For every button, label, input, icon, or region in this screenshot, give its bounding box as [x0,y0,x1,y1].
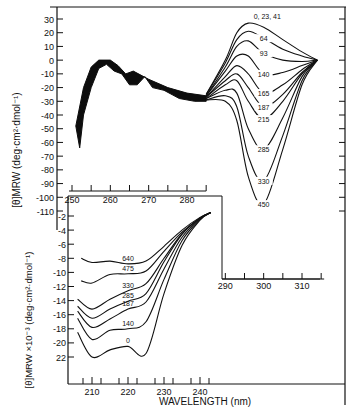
series-label: 0, 23, 41 [254,13,281,20]
y-tick-label: -100 [36,193,54,203]
inset-curve-labels: 6404753302851871400 [122,255,134,344]
x-tick-label: 310 [294,281,309,291]
main-curve-labels: 0, 23, 416493140165187215285330450 [254,12,281,208]
inset-series-label: 330 [122,282,134,289]
inset-y-tick-label: -20 [53,338,66,348]
inset-y-axis: -2-4-6-8-10-12-14-16-18-2022 [53,212,74,363]
x-tick-label: 300 [256,281,271,291]
inset-y-tick-label: -6 [58,240,66,250]
series-label: 64 [260,35,268,42]
inset-curves [78,213,211,358]
y-tick-label: -20 [41,83,54,93]
y-tick-label: 10 [44,42,54,52]
inset-series-label: 0 [126,337,130,344]
y-tick-label: -110 [37,207,54,217]
y-tick-label: -90 [41,179,54,189]
series-label: 165 [258,90,270,97]
inset-y-tick-label: -2 [58,212,66,222]
x-tick-label: 290 [218,281,233,291]
y-tick-label: 30 [44,15,54,25]
main-y-axis-label: [θ]MRW (deg·cm²·dmol⁻¹) [11,92,22,207]
inset-curve [81,213,211,264]
series-label: 285 [258,146,270,153]
inset-series-label: 140 [122,320,134,327]
inset-y-tick-label: 22 [56,353,66,363]
y-tick-label: -70 [41,152,54,162]
y-tick-label: -40 [41,111,54,121]
series-label: 450 [258,201,270,208]
cd-spectra-chart: 3020100-10-20-30-40-50-60-70-80-90-100-1… [0,0,351,413]
y-tick-label: -30 [41,97,54,107]
inset-y-tick-label: -12 [53,282,66,292]
series-label: 187 [258,104,270,111]
series-label: 93 [260,50,268,57]
inset-y-tick-label: -16 [53,310,66,320]
series-label: 140 [258,71,270,78]
inset-y-tick-label: -18 [53,324,66,334]
series-label: 215 [258,116,270,123]
inset-series-label: 475 [122,265,134,272]
main-x-axis: 250260270280290300310 [64,185,324,291]
inset-y-tick-label: -10 [53,268,66,278]
overlapping-curves-band [76,60,206,148]
inset-y-tick-label: -4 [58,226,66,236]
series-label: 330 [258,178,270,185]
inset-y-tick-label: -8 [58,254,66,264]
y-tick-label: -60 [41,138,54,148]
y-tick-label: -10 [41,69,54,79]
inset-y-tick-label: -14 [53,296,66,306]
inset-x-tick-label: 220 [120,387,135,397]
inset-x-tick-label: 210 [84,387,99,397]
inset-series-label: 187 [122,300,134,307]
inset-x-axis: 210220230240 [83,377,209,397]
inset-y-axis-label: [θ]MRW ×10⁻³ (deg·cm²·dmol⁻¹) [23,252,34,389]
inset-series-label: 285 [122,292,134,299]
y-tick-label: -80 [41,165,54,175]
y-tick-label: -50 [41,124,54,134]
inset-series-label: 640 [122,255,134,262]
inset-x-axis-label: WAVELENGTH (nm) [159,396,251,407]
y-tick-label: 0 [49,56,54,66]
y-tick-label: 20 [44,28,54,38]
